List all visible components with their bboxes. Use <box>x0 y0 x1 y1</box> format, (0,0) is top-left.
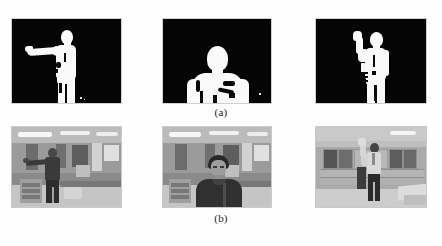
ceiling-light-1 <box>169 132 201 137</box>
subject-raised-hand <box>358 138 366 146</box>
wall-panel-dark-1 <box>26 144 38 170</box>
wall-panel-light <box>242 143 252 171</box>
cabinet-drawer-3 <box>22 195 40 199</box>
wall-panel-dark-3 <box>72 145 88 167</box>
wall-panel-light <box>92 143 102 171</box>
cabinet-glass-4 <box>403 149 417 169</box>
mask-arm-down <box>382 50 389 76</box>
cabinet-drawer-2 <box>171 189 189 193</box>
mask-dropout-4 <box>65 89 67 97</box>
mask-dropout-1 <box>64 53 66 62</box>
photo-panel-2 <box>162 126 272 208</box>
silhouette-canvas-3 <box>316 19 426 103</box>
ceiling-light-2 <box>209 131 239 135</box>
mask-hand <box>25 46 33 52</box>
subject-leg-gap <box>373 182 375 201</box>
photo-canvas-2 <box>163 127 271 207</box>
mask-speck-1 <box>80 97 82 99</box>
mask-sleeve-patch <box>361 63 368 72</box>
mask-dropout-3 <box>59 83 62 93</box>
mask-arm-right <box>237 79 249 103</box>
wall-notice-board <box>104 145 119 161</box>
mask-dropout-2 <box>360 72 368 74</box>
mask-leg-right <box>377 82 385 103</box>
subject-eye-right <box>220 166 224 168</box>
cabinet-drawer-1 <box>171 183 189 187</box>
mask-dropout-5 <box>200 91 203 103</box>
caption-b: (b) <box>0 212 442 224</box>
photo-canvas-3 <box>316 127 426 207</box>
mask-shoulder <box>52 46 64 56</box>
cabinet-drawer-3 <box>171 195 189 199</box>
mask-dropout-5 <box>55 69 58 73</box>
mask-dropout-3 <box>360 76 368 78</box>
cabinet-drawer-1 <box>22 183 40 187</box>
mask-dropout-5 <box>373 55 375 67</box>
subject-leg-gap <box>52 187 54 203</box>
monitor <box>76 165 90 177</box>
cabinet-drawer-2 <box>22 189 40 193</box>
subject-lanyard <box>372 153 375 165</box>
mask-speck-1 <box>259 93 261 95</box>
photo-canvas-1 <box>12 127 121 207</box>
mask-dropout-4 <box>361 80 368 82</box>
ceiling-light-3 <box>96 132 118 136</box>
mask-dropout-6 <box>372 71 376 75</box>
cabinet-glass-2 <box>338 149 353 169</box>
mask-dropout-7 <box>374 85 377 101</box>
silhouette-row <box>0 18 442 104</box>
silhouette-canvas-2 <box>163 19 271 103</box>
cabinet-glass-3 <box>389 149 403 169</box>
mask-dropout-2 <box>223 81 235 86</box>
mask-dropout-6 <box>229 93 235 98</box>
photo-panel-3 <box>315 126 427 208</box>
wall-notice-board <box>254 145 269 161</box>
silhouette-panel-1 <box>11 18 122 104</box>
photo-row <box>0 126 442 208</box>
subject-eye-left <box>213 166 217 168</box>
figure-container: (a) <box>0 0 442 246</box>
ceiling-light <box>390 131 416 135</box>
mask-dropout-4 <box>213 95 217 103</box>
cabinet-glass-1 <box>323 149 338 169</box>
silhouette-panel-3 <box>315 18 427 104</box>
wall-panel-dark-1 <box>175 144 187 170</box>
silhouette-panel-2 <box>162 18 272 104</box>
silhouette-canvas-1 <box>12 19 121 103</box>
ceiling-light-2 <box>60 131 90 135</box>
subject-hand <box>23 158 29 163</box>
mask-dropout-2 <box>56 62 61 68</box>
photo-panel-1 <box>11 126 122 208</box>
mask-raised-hand <box>353 31 362 41</box>
caption-a: (a) <box>0 106 442 118</box>
ceiling-light-3 <box>247 132 268 136</box>
ceiling-light-1 <box>18 132 52 137</box>
mask-leg-right <box>67 81 75 103</box>
desk-surface-right <box>237 181 271 187</box>
subject-strap <box>223 183 226 207</box>
mask-speck-2 <box>84 99 85 100</box>
desk-chair <box>64 187 82 199</box>
floor-box-right-2 <box>404 195 426 205</box>
